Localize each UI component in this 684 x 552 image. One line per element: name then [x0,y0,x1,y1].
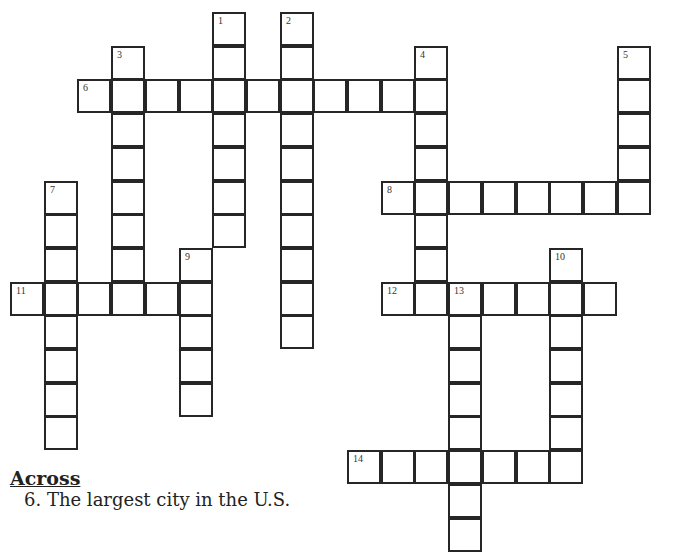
crossword-cell[interactable]: 9 [179,248,213,282]
crossword-cell[interactable]: 14 [347,450,381,484]
crossword-cell[interactable] [414,450,448,484]
crossword-cell[interactable] [280,113,314,147]
crossword-cell[interactable] [44,383,78,417]
crossword-cell[interactable] [44,282,78,316]
crossword-cell[interactable] [414,113,448,147]
crossword-cell[interactable] [414,181,448,215]
clue-number: 13 [454,286,464,296]
crossword-cell[interactable] [549,315,583,349]
crossword-cell[interactable] [347,79,381,113]
crossword-cell[interactable] [549,181,583,215]
crossword-cell[interactable] [111,113,145,147]
crossword-cell[interactable] [280,315,314,349]
crossword-cell[interactable] [280,214,314,248]
crossword-cell[interactable] [414,147,448,181]
crossword-cell[interactable] [414,214,448,248]
crossword-cell[interactable] [414,248,448,282]
crossword-cell[interactable] [583,181,617,215]
crossword-cell[interactable]: 11 [10,282,44,316]
crossword-cell[interactable] [212,113,246,147]
crossword-cell[interactable] [179,315,213,349]
crossword-cell[interactable]: 10 [549,248,583,282]
crossword-cell[interactable]: 8 [381,181,415,215]
crossword-cell[interactable] [179,282,213,316]
across-heading: Across [10,466,290,490]
crossword-cell[interactable] [212,181,246,215]
crossword-cell[interactable] [111,214,145,248]
crossword-cell[interactable] [448,349,482,383]
clue-number: 8 [387,185,392,195]
crossword-cell[interactable] [617,79,651,113]
crossword-cell[interactable] [280,248,314,282]
crossword-cell[interactable] [280,282,314,316]
crossword-cell[interactable] [549,349,583,383]
crossword-cell[interactable]: 12 [381,282,415,316]
crossword-cell[interactable] [246,79,280,113]
crossword-cell[interactable] [482,181,516,215]
crossword-cell[interactable] [212,79,246,113]
crossword-cell[interactable] [448,181,482,215]
crossword-cell[interactable] [280,181,314,215]
crossword-cell[interactable] [111,181,145,215]
crossword-cell[interactable] [212,147,246,181]
crossword-cell[interactable] [179,383,213,417]
crossword-cell[interactable] [482,450,516,484]
crossword-cell[interactable] [381,450,415,484]
crossword-cell[interactable] [44,315,78,349]
crossword-cell[interactable] [549,282,583,316]
clue-number: 12 [387,286,397,296]
crossword-cell[interactable] [549,383,583,417]
crossword-cell[interactable] [44,214,78,248]
crossword-cell[interactable] [516,450,550,484]
crossword-cell[interactable] [448,383,482,417]
crossword-cell[interactable] [179,79,213,113]
crossword-cell[interactable] [313,79,347,113]
crossword-cell[interactable]: 2 [280,12,314,46]
crossword-cell[interactable] [448,416,482,450]
crossword-cell[interactable] [617,147,651,181]
clue-number: 2 [286,16,291,26]
crossword-cell[interactable] [617,113,651,147]
crossword-cell[interactable] [280,147,314,181]
clues-section: Across 6. The largest city in the U.S. [10,466,290,510]
crossword-cell[interactable] [549,450,583,484]
crossword-cell[interactable] [111,147,145,181]
crossword-cell[interactable] [448,484,482,518]
crossword-cell[interactable] [280,46,314,80]
crossword-cell[interactable] [448,450,482,484]
clue-number: 7 [50,185,55,195]
crossword-cell[interactable] [145,79,179,113]
crossword-cell[interactable] [381,79,415,113]
crossword-cell[interactable] [44,248,78,282]
crossword-cell[interactable] [111,248,145,282]
crossword-cell[interactable] [448,518,482,552]
crossword-cell[interactable] [77,282,111,316]
crossword-cell[interactable] [414,79,448,113]
crossword-cell[interactable] [583,282,617,316]
crossword-cell[interactable] [111,79,145,113]
crossword-cell[interactable]: 3 [111,46,145,80]
crossword-cell[interactable]: 1 [212,12,246,46]
crossword-cell[interactable] [482,282,516,316]
crossword-cell[interactable]: 13 [448,282,482,316]
crossword-cell[interactable] [516,282,550,316]
clue-number: 6 [83,83,88,93]
crossword-cell[interactable] [179,349,213,383]
crossword-cell[interactable]: 6 [77,79,111,113]
crossword-cell[interactable] [549,416,583,450]
clue-number: 10 [555,252,565,262]
crossword-cell[interactable] [111,282,145,316]
crossword-cell[interactable] [617,181,651,215]
crossword-cell[interactable]: 5 [617,46,651,80]
crossword-cell[interactable] [44,416,78,450]
crossword-cell[interactable] [145,282,179,316]
crossword-cell[interactable] [448,315,482,349]
crossword-cell[interactable]: 7 [44,181,78,215]
crossword-cell[interactable] [212,214,246,248]
crossword-cell[interactable] [212,46,246,80]
crossword-cell[interactable] [516,181,550,215]
crossword-cell[interactable] [44,349,78,383]
crossword-cell[interactable] [414,282,448,316]
crossword-cell[interactable]: 4 [414,46,448,80]
crossword-cell[interactable] [280,79,314,113]
